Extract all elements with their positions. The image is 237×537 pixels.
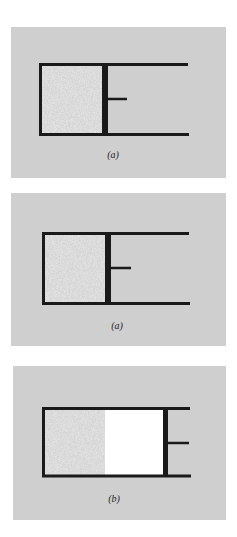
panel-b: (b) [13, 366, 226, 520]
panel-label: (b) [94, 493, 134, 504]
panel-label: (a) [93, 149, 133, 160]
panel-a-1: (a) [11, 27, 226, 178]
panel-a-2: (a) [11, 193, 226, 346]
empty-region [105, 409, 163, 476]
panel-label: (a) [97, 320, 137, 331]
